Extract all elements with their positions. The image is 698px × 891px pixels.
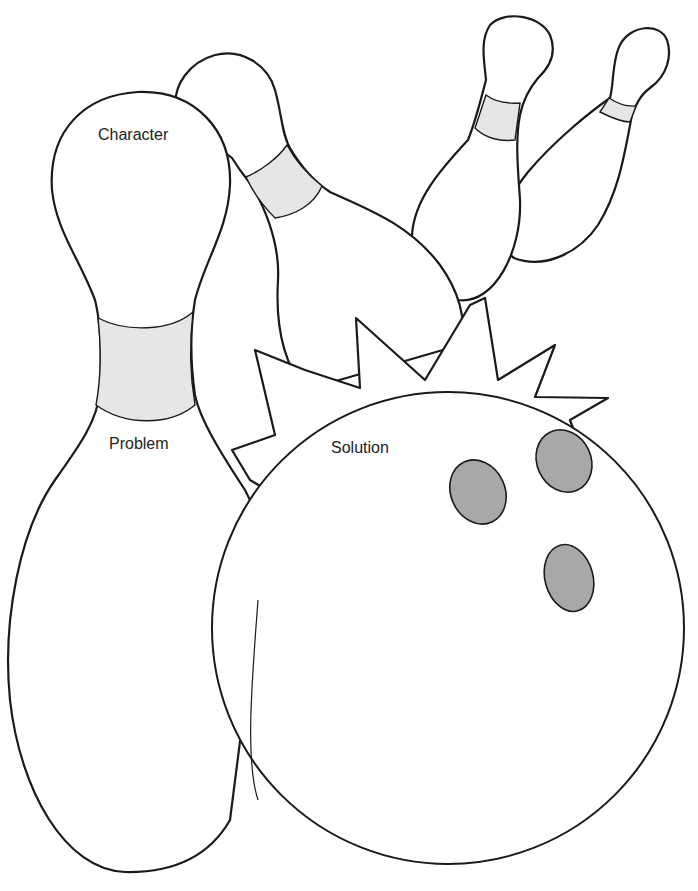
- problem-label: Problem: [109, 436, 169, 452]
- character-label: Character: [98, 127, 168, 143]
- bowling-ball: [212, 392, 684, 864]
- solution-label: Solution: [331, 440, 389, 456]
- pin-collar-stripe: [96, 312, 195, 421]
- bowling-pin-front: [8, 92, 260, 872]
